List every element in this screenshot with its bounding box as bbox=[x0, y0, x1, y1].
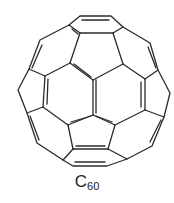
bond bbox=[145, 70, 158, 79]
bond bbox=[108, 149, 127, 159]
double-bond bbox=[47, 79, 48, 104]
bond bbox=[27, 107, 43, 113]
double-bond bbox=[74, 64, 91, 77]
bond bbox=[123, 64, 145, 79]
double-bond bbox=[96, 116, 112, 122]
fullerene-diagram: C60 bbox=[0, 0, 174, 203]
outer-ring bbox=[18, 16, 170, 166]
bond bbox=[43, 107, 68, 125]
bond bbox=[43, 76, 45, 107]
bond bbox=[70, 33, 80, 63]
formula-label: C60 bbox=[0, 172, 174, 192]
bond bbox=[70, 63, 93, 80]
bond bbox=[145, 110, 164, 117]
bond bbox=[108, 125, 115, 149]
bond bbox=[29, 69, 45, 76]
bond bbox=[45, 63, 70, 76]
bond bbox=[113, 27, 123, 33]
bond bbox=[93, 64, 123, 80]
double-bond bbox=[71, 116, 91, 122]
formula-subscript: 60 bbox=[87, 180, 99, 192]
bond bbox=[63, 149, 73, 160]
bond bbox=[68, 125, 73, 149]
formula-element: C bbox=[75, 172, 87, 191]
bond bbox=[115, 110, 145, 125]
c60-structure bbox=[0, 0, 174, 170]
bond bbox=[113, 33, 123, 64]
